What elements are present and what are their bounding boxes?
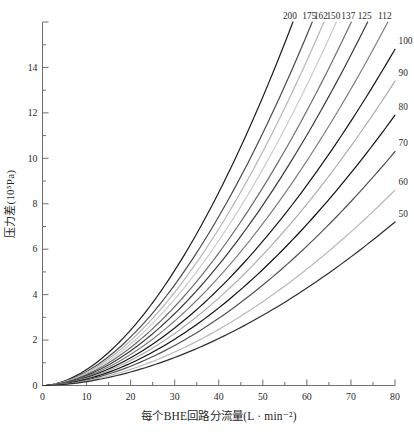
curve-label-60: 60 [399, 177, 409, 187]
y-tick-label: 8 [33, 198, 38, 209]
x-tick-label: 20 [126, 391, 136, 402]
y-tick-label: 4 [33, 289, 38, 300]
curve-label-150: 150 [326, 11, 340, 21]
curve-125 [43, 22, 368, 386]
x-tick-label: 80 [390, 391, 400, 402]
curve-80 [43, 115, 396, 385]
curve-137 [43, 22, 352, 386]
x-tick-label: 10 [82, 391, 92, 402]
chart-canvas: 0102030405060708002468101214200175162150… [0, 0, 414, 435]
curve-label-200: 200 [283, 11, 297, 21]
y-tick-label: 14 [28, 62, 38, 73]
y-tick-label: 10 [28, 153, 38, 164]
x-tick-label: 50 [258, 391, 268, 402]
y-tick-label: 0 [33, 380, 38, 391]
curve-label-50: 50 [399, 209, 409, 219]
curve-label-137: 137 [341, 11, 355, 21]
curve-labels: 2001751621501371251121009080706050 [283, 11, 413, 219]
curves [43, 22, 396, 386]
curve-50 [43, 222, 396, 386]
curve-label-112: 112 [378, 11, 392, 21]
pressure-drop-vs-flow-chart: 0102030405060708002468101214200175162150… [0, 0, 414, 435]
curve-label-125: 125 [358, 11, 372, 21]
curve-200 [43, 22, 293, 386]
y-axis-label: 压力差(10⁵Pa) [1, 170, 17, 238]
y-tick-label: 6 [33, 243, 38, 254]
y-tick-label: 12 [28, 107, 38, 118]
x-axis-label: 每个BHE回路分流量(L · min⁻²) [43, 407, 395, 423]
x-tick-label: 60 [302, 391, 312, 402]
y-tick-label: 2 [33, 334, 38, 345]
x-tick-label: 40 [214, 391, 224, 402]
curve-label-80: 80 [399, 102, 409, 112]
x-tick-label: 0 [40, 391, 45, 402]
x-tick-label: 30 [170, 391, 180, 402]
curve-70 [43, 152, 396, 386]
curve-162 [43, 22, 324, 386]
curve-60 [43, 190, 396, 385]
axes: 0102030405060708002468101214 [28, 22, 400, 402]
curve-label-100: 100 [399, 36, 413, 46]
curve-label-90: 90 [399, 68, 409, 78]
curve-90 [43, 81, 396, 385]
curve-label-70: 70 [399, 138, 409, 148]
x-tick-label: 70 [346, 391, 356, 402]
